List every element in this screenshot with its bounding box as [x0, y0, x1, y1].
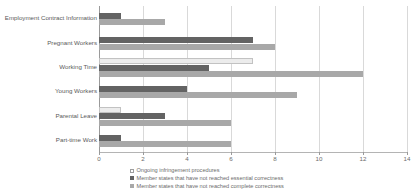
bar-group: [99, 30, 407, 54]
bar-group: [99, 79, 407, 103]
bar: [99, 44, 275, 50]
category-label: Working Time: [2, 63, 97, 71]
bar: [99, 107, 121, 113]
x-axis-line: [99, 152, 407, 153]
bar: [99, 141, 231, 147]
bar: [99, 113, 165, 119]
legend-swatch-icon: [130, 184, 134, 188]
chart-legend: Ongoing infringement proceduresMember st…: [130, 167, 405, 190]
x-axis-tick-labels: 02468101214: [0, 154, 410, 166]
x-tick-label: 4: [175, 154, 199, 163]
x-tick-mark: [99, 152, 100, 155]
x-tick-label: 0: [87, 154, 111, 163]
bar-group: [99, 128, 407, 152]
x-tick-label: 8: [263, 154, 287, 163]
category-label: Young Workers: [2, 87, 97, 95]
category-label: Part-time Work: [2, 136, 97, 144]
legend-swatch-icon: [130, 169, 134, 173]
bar: [99, 92, 297, 98]
x-tick-mark: [363, 152, 364, 155]
x-tick-label: 6: [219, 154, 243, 163]
legend-label: Member states that have not reached esse…: [137, 175, 284, 182]
x-tick-mark: [407, 152, 408, 155]
legend-item: Member states that have not reached esse…: [130, 175, 405, 182]
x-tick-label: 2: [131, 154, 155, 163]
bar: [99, 13, 121, 19]
x-tick-mark: [319, 152, 320, 155]
category-label: Employment Contract Information: [2, 14, 97, 22]
bar-group: [99, 55, 407, 79]
x-tick-mark: [275, 152, 276, 155]
legend-item: Member states that have not reached comp…: [130, 183, 405, 190]
bar: [99, 71, 363, 77]
x-tick-mark: [231, 152, 232, 155]
x-tick-label: 12: [351, 154, 375, 163]
bar: [99, 120, 231, 126]
bar: [99, 86, 187, 92]
bar: [99, 37, 253, 43]
bar: [99, 19, 165, 25]
bar-group: [99, 103, 407, 127]
legend-swatch-icon: [130, 176, 134, 180]
x-tick-label: 10: [307, 154, 331, 163]
y-axis-category-labels: Employment Contract InformationPregnant …: [0, 6, 97, 152]
bar-group: [99, 6, 407, 30]
category-label: Parental Leave: [2, 112, 97, 120]
bar: [99, 135, 121, 141]
x-tick-mark: [187, 152, 188, 155]
legend-label: Ongoing infringement procedures: [137, 167, 220, 174]
bar: [99, 58, 253, 64]
category-label: Pregnant Workers: [2, 39, 97, 47]
x-tick-mark: [143, 152, 144, 155]
legend-label: Member states that have not reached comp…: [137, 183, 284, 190]
x-tick-label: 14: [395, 154, 415, 163]
plot-area: [99, 6, 407, 152]
bar: [99, 65, 209, 71]
legend-item: Ongoing infringement procedures: [130, 167, 405, 174]
gridline: [407, 6, 408, 152]
